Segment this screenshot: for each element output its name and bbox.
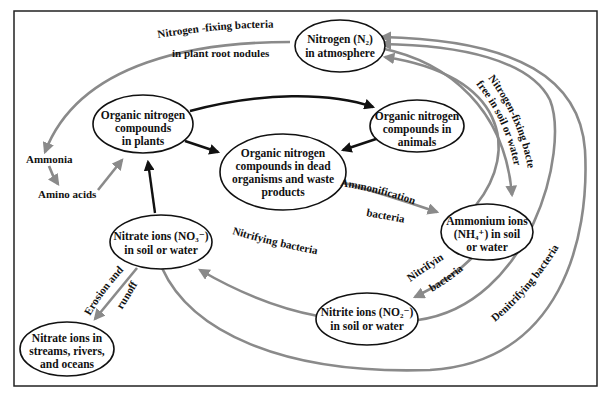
node-animals-line-2: compounds in [383, 123, 452, 136]
label-ammonification-line-2: bacteria [366, 206, 406, 225]
node-nitrite-line-2: in soil or water [330, 320, 404, 332]
node-plants-line-3: in plants [122, 135, 165, 148]
nitrogen-cycle-diagram: Nitrogen (N₂) in atmosphere Organic nitr… [0, 0, 607, 405]
node-dead-organisms: Organic nitrogen compounds in dead organ… [220, 134, 346, 210]
node-nitrate-line-1: Nitrate ions (NO₃⁻) [113, 230, 208, 243]
node-ammonium-line-2: (NH₄⁺) in soil [454, 228, 520, 241]
label-erosion-line-2: runoff [114, 279, 140, 311]
node-ammonium: Ammonium ions (NH₄⁺) in soil or water [441, 204, 533, 260]
node-atmosphere-line-2: in atmosphere [305, 47, 375, 60]
node-nitrite: Nitrite ions (NO₂⁻) in soil or water [316, 293, 418, 345]
arrow-nitrate-to-plants [148, 162, 155, 213]
label-ammonification-line-1: Ammonification [340, 176, 418, 206]
node-dead-line-1: Organic nitrogen [241, 147, 326, 160]
node-dead-line-3: organisms and waste [232, 173, 334, 186]
node-streams-line-2: streams, rivers, [29, 345, 105, 357]
node-streams-line-1: Nitrate ions in [32, 332, 103, 344]
node-atmosphere-line-1: Nitrogen (N₂) [307, 33, 373, 46]
node-animals: Organic nitrogen compounds in animals [370, 100, 464, 152]
node-ammonium-line-1: Ammonium ions [446, 215, 528, 227]
arrow-plants-to-dead [185, 141, 218, 152]
label-root-nodules-line-1: Nitrogen -fixing bacteria [156, 18, 274, 40]
arrow-amino-acids-to-plants [98, 160, 122, 190]
label-nitrifying-b: Nitrifying bacteria [231, 224, 319, 256]
node-plants-line-1: Organic nitrogen [101, 109, 186, 122]
arrow-nitrite-to-nitrate [200, 270, 318, 316]
arrow-ammonia-to-amino-acids [49, 166, 58, 184]
label-ammonia: Ammonia [26, 153, 73, 165]
node-nitrate-line-2: in soil or water [124, 244, 198, 256]
node-animals-line-3: animals [398, 136, 437, 148]
label-amino-acids: Amino acids [38, 188, 97, 200]
node-atmosphere: Nitrogen (N₂) in atmosphere [295, 20, 385, 72]
node-streams: Nitrate ions in streams, rivers, and oce… [20, 322, 114, 376]
node-nitrite-line-1: Nitrite ions (NO₂⁻) [321, 306, 414, 319]
node-dead-line-2: compounds in dead [235, 160, 331, 173]
node-streams-line-3: and oceans [40, 358, 95, 370]
node-plants: Organic nitrogen compounds in plants [93, 95, 193, 153]
arrow-plants-to-animals [190, 96, 373, 111]
node-plants-line-2: compounds [115, 122, 172, 135]
label-root-nodules-line-2: in plant root nodules [172, 47, 270, 59]
node-animals-line-1: Organic nitrogen [375, 110, 460, 123]
node-dead-line-4: products [261, 186, 305, 199]
node-nitrate: Nitrate ions (NO₃⁻) in soil or water [110, 215, 212, 269]
node-ammonium-line-3: or water [466, 241, 508, 253]
